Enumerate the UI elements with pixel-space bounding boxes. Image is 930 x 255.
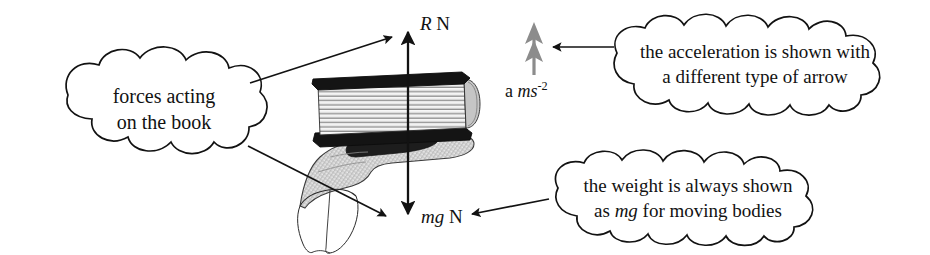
leader-weight-note-to-mg <box>472 199 549 214</box>
label-normal-reaction-symbol: R <box>420 13 432 34</box>
label-normal-reaction-unit: N <box>436 13 450 34</box>
label-weight-symbol: mg <box>421 206 444 227</box>
cloud-weight-note[interactable] <box>555 150 812 245</box>
label-acceleration-symbol: a <box>505 81 513 101</box>
label-weight-unit: N <box>449 206 463 227</box>
cloud-acceleration-note[interactable] <box>614 14 880 115</box>
acceleration-arrow <box>525 22 543 75</box>
label-normal-reaction: R N <box>420 13 450 35</box>
hand-illustration <box>298 134 474 253</box>
label-acceleration: a ms-2 <box>505 79 548 102</box>
cloud-forces-acting[interactable] <box>66 47 267 154</box>
label-acceleration-unit-exponent: -2 <box>538 79 548 93</box>
label-weight: mg N <box>421 206 463 228</box>
label-acceleration-unit-base: ms <box>518 81 538 101</box>
diagram-artwork <box>0 0 930 255</box>
physics-force-diagram: R N mg N a ms-2 forces acting on the boo… <box>0 0 930 255</box>
book-illustration <box>312 72 480 147</box>
